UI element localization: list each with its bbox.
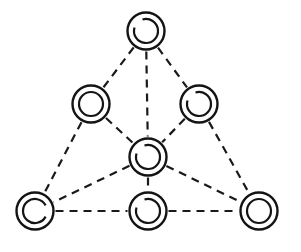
edge-top-to-upper-left: [103, 47, 133, 87]
node-bottom-middle: [130, 193, 167, 230]
node-layer: [17, 13, 278, 230]
node-upper-left: [73, 86, 110, 123]
node-bottom-left: [17, 193, 54, 230]
edge-upper-right-to-center: [162, 119, 185, 142]
edge-top-to-upper-right: [158, 48, 187, 88]
network-diagram: [0, 0, 301, 252]
node-center: [130, 139, 167, 176]
edge-upper-left-to-bottom-left: [45, 122, 82, 193]
node-bottom-right: [241, 193, 278, 230]
edge-center-to-bottom-right: [166, 166, 240, 202]
edge-upper-right-to-bottom-right: [209, 122, 249, 193]
node-upper-right: [181, 86, 218, 123]
edge-upper-left-to-center: [106, 118, 133, 143]
edge-center-to-bottom-left: [54, 166, 130, 202]
node-top: [128, 13, 165, 50]
edge-top-to-center: [146, 52, 147, 137]
edge-layer: [45, 47, 250, 211]
